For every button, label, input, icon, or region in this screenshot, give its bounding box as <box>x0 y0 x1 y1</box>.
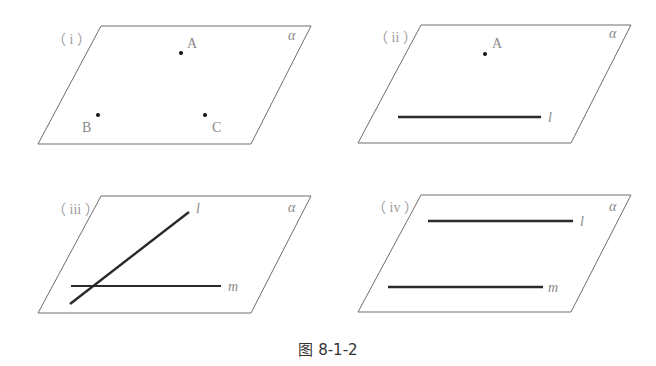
panel-ii: （ ii ） α A l <box>358 25 631 143</box>
line-l-iii <box>70 212 189 304</box>
panel-iii: （ iii ） α l m <box>38 196 311 313</box>
line-label-l-iii: l <box>196 201 200 216</box>
point-A-ii <box>483 52 487 56</box>
figure-caption: 图 8-1-2 <box>0 338 656 359</box>
point-label-C-i: C <box>212 120 221 135</box>
panel-label-ii: （ ii ） <box>374 30 417 45</box>
point-label-A-ii: A <box>492 36 503 51</box>
plane-label-alpha-ii: α <box>609 26 617 41</box>
line-label-m-iii: m <box>228 279 238 294</box>
plane-label-alpha-iii: α <box>288 200 296 215</box>
panel-label-iv: （ iv ） <box>372 200 418 215</box>
panel-iv: （ iv ） α l m <box>358 195 631 312</box>
panel-label-i: （ i ） <box>52 32 91 47</box>
panel-i: （ i ） α A B C <box>38 26 311 144</box>
point-B-i <box>96 113 100 117</box>
plane-label-alpha-i: α <box>288 28 296 43</box>
plane-label-alpha-iv: α <box>609 199 617 214</box>
point-label-A-i: A <box>187 36 198 51</box>
point-A-i <box>179 51 183 55</box>
panel-label-iii: （ iii ） <box>52 202 99 217</box>
line-label-l-ii: l <box>548 110 552 125</box>
point-C-i <box>203 113 207 117</box>
line-label-l-iv: l <box>580 214 584 229</box>
point-label-B-i: B <box>82 120 91 135</box>
figure-diagram: （ i ） α A B C （ ii ） α A l （ iii ） α l m… <box>0 0 656 366</box>
line-label-m-iv: m <box>548 280 558 295</box>
